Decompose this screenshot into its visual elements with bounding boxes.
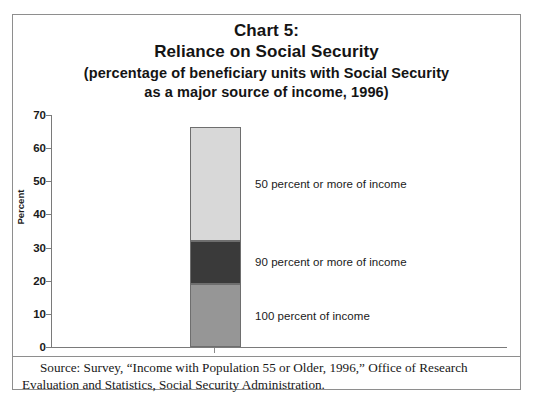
y-axis-tick-label: 30 (20, 242, 46, 253)
segment-label: 100 percent of income (255, 310, 370, 322)
chart-screenshot: Chart 5: Reliance on Social Security (pe… (0, 0, 535, 405)
y-axis-tick-label: 50 (20, 176, 46, 187)
plot-area: Percent 010203040506070 100 percent of i… (0, 0, 535, 405)
y-axis-tick-label: 70 (20, 110, 46, 121)
segment-label: 90 percent or more of income (255, 256, 407, 268)
x-axis-line (51, 347, 507, 348)
bar-segment (190, 127, 241, 241)
y-axis-line (51, 115, 52, 348)
bar-segment (190, 241, 241, 284)
y-axis-tick-label: 40 (20, 209, 46, 220)
y-axis-tick-label: 10 (20, 308, 46, 319)
x-axis-tick-mark (214, 348, 215, 353)
bar-segment (190, 284, 241, 347)
segment-label: 50 percent or more of income (255, 178, 407, 190)
y-axis-tick-label: 20 (20, 275, 46, 286)
y-axis-tick-label: 0 (20, 342, 46, 353)
source-note: Source: Survey, “Income with Population … (22, 360, 514, 393)
y-axis-tick-labels: 010203040506070 (12, 0, 46, 405)
source-divider (13, 356, 520, 357)
y-axis-tick-label: 60 (20, 143, 46, 154)
